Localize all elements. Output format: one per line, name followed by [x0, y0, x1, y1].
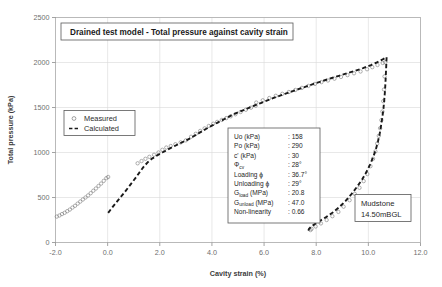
svg-text:0.0: 0.0: [103, 248, 113, 257]
parameter-label-0: Uo (kPa): [234, 133, 260, 141]
legend-label-calculated: Calculated: [84, 124, 119, 133]
parameter-value-6: : 20.8: [288, 189, 305, 196]
svg-text:10.0: 10.0: [361, 248, 375, 257]
parameter-value-0: : 158: [288, 133, 303, 140]
svg-text:4.0: 4.0: [207, 248, 217, 257]
chart-title: Drained test model - Total pressure agai…: [70, 28, 288, 37]
svg-text:8.0: 8.0: [311, 248, 321, 257]
parameter-label-2: c' (kPa): [234, 152, 256, 160]
svg-text:6.0: 6.0: [259, 248, 269, 257]
svg-text:1000: 1000: [34, 148, 50, 157]
parameter-value-8: : 0.66: [288, 208, 305, 215]
y-axis-title: Total pressure (kPa): [6, 95, 15, 164]
svg-text:2000: 2000: [34, 58, 50, 67]
parameter-value-5: : 29°: [288, 180, 302, 187]
parameter-box: Uo (kPa): 158Po (kPa): 290c' (kPa): 30Φc…: [228, 128, 320, 223]
parameter-label-4: Loading ϕ: [234, 171, 263, 179]
svg-text:0: 0: [46, 238, 50, 247]
parameter-value-1: : 290: [288, 142, 303, 149]
note-box: Mudstone 14.50mBGL: [355, 195, 411, 222]
title-box: Drained test model - Total pressure agai…: [61, 23, 293, 40]
svg-text:500: 500: [38, 193, 50, 202]
parameter-label-5: Unloading ϕ: [234, 180, 270, 188]
legend-box: Measured Calculated: [64, 111, 135, 136]
parameter-value-3: : 28°: [288, 161, 302, 168]
svg-text:-2.0: -2.0: [49, 248, 61, 257]
svg-text:2.0: 2.0: [155, 248, 165, 257]
legend-label-measured: Measured: [84, 114, 117, 123]
svg-text:1500: 1500: [34, 103, 50, 112]
svg-text:2500: 2500: [34, 13, 50, 22]
parameter-label-1: Po (kPa): [234, 142, 260, 150]
note-line-material: Mudstone: [361, 199, 394, 208]
chart-figure: -2.00.02.04.06.08.010.012.00500100015002…: [0, 0, 442, 287]
x-axis-title: Cavity strain (%): [210, 269, 267, 278]
note-line-depth: 14.50mBGL: [361, 210, 402, 219]
parameter-value-7: : 47.0: [288, 199, 305, 206]
svg-text:12.0: 12.0: [414, 248, 428, 257]
parameter-value-4: : 36.7°: [288, 171, 307, 178]
parameter-label-8: Non-linearity: [234, 208, 272, 216]
parameter-value-2: : 30: [288, 152, 299, 159]
